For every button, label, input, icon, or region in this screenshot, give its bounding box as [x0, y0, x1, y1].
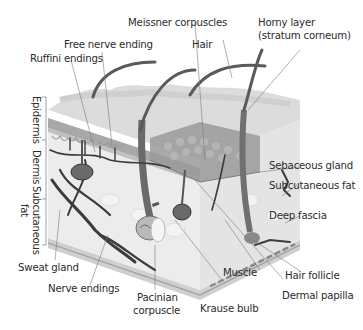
label-free-nerve-ending: Free nerve ending: [64, 39, 153, 51]
label-ruffini-endings: Ruffini endings: [30, 53, 103, 65]
pacinian-corpuscle: [151, 218, 165, 242]
label-muscle: Muscle: [223, 267, 257, 279]
label-dermal-papilla: Dermal papilla: [282, 290, 353, 302]
label-krause-bulb: Krause bulb: [200, 303, 258, 315]
label-stratum-corneum: (stratum corneum): [258, 30, 351, 42]
layer-label-fat: fat: [19, 204, 30, 217]
label-hair: Hair: [192, 39, 212, 51]
label-sebaceous-gland: Sebaceous gland: [269, 160, 353, 172]
label-meissner-corpuscles: Meissner corpuscles: [128, 17, 227, 29]
layer-label-dermis: Dermis: [31, 150, 42, 184]
label-subcutaneous-fat: Subcutaneous fat: [269, 180, 355, 192]
label-horny-layer: Horny layer: [258, 17, 315, 29]
layer-label-subcutaneous: Subcutaneous: [31, 186, 42, 255]
skin-diagram: Meissner corpuscles Horny layer (stratum…: [0, 0, 363, 330]
layer-label-epidermis: Epidermis: [31, 96, 42, 144]
label-nerve-endings: Nerve endings: [48, 283, 119, 295]
label-pacinian: Pacinian: [137, 292, 178, 304]
label-deep-fascia: Deep fascia: [269, 210, 327, 222]
layer-bracket: [42, 97, 46, 245]
label-corpuscle: corpuscle: [133, 305, 180, 317]
label-sweat-gland: Sweat gland: [18, 262, 79, 274]
label-hair-follicle: Hair follicle: [285, 270, 340, 282]
